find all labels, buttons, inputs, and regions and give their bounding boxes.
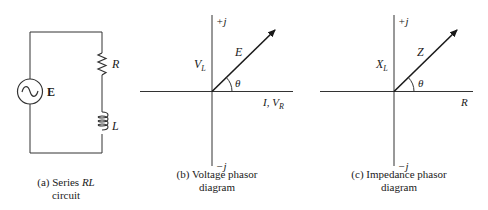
voltage-phasor-diagram	[140, 15, 293, 166]
inductor-label: L	[112, 120, 119, 132]
caption-c: (c) Impedance phasor diagram	[344, 168, 454, 194]
angle-arc	[226, 78, 232, 92]
phasor-e-label: E	[235, 46, 242, 58]
vl-label: VL	[194, 58, 206, 72]
r-axis-label: R	[461, 96, 468, 108]
sine-wave-icon	[22, 87, 38, 97]
i-vr-label: I, VR	[263, 96, 284, 110]
theta-label: θ	[418, 77, 423, 89]
phasor-z-label: Z	[417, 46, 424, 58]
resistor-label: R	[112, 58, 119, 70]
impedance-phasor-diagram	[320, 15, 473, 166]
xl-label: XL	[376, 58, 388, 72]
angle-arc	[408, 78, 414, 92]
theta-label: θ	[235, 77, 240, 89]
caption-a: (a) Series RL circuit	[20, 176, 112, 202]
series-rl-circuit	[18, 32, 109, 153]
resistor-icon	[98, 53, 106, 75]
pos-imag-label: +j	[398, 15, 408, 27]
inductor-icon	[98, 112, 108, 130]
phasor-z-arrow	[394, 30, 457, 92]
pos-imag-label: +j	[216, 15, 226, 27]
source-label: E	[47, 86, 55, 98]
caption-b: (b) Voltage phasor diagram	[162, 168, 272, 194]
phasor-e-arrow	[212, 30, 275, 92]
